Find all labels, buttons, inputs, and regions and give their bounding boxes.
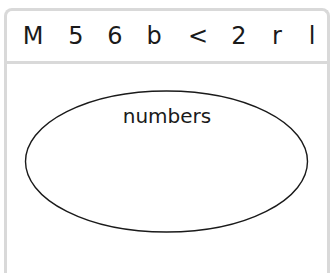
set-label: numbers — [123, 104, 211, 128]
